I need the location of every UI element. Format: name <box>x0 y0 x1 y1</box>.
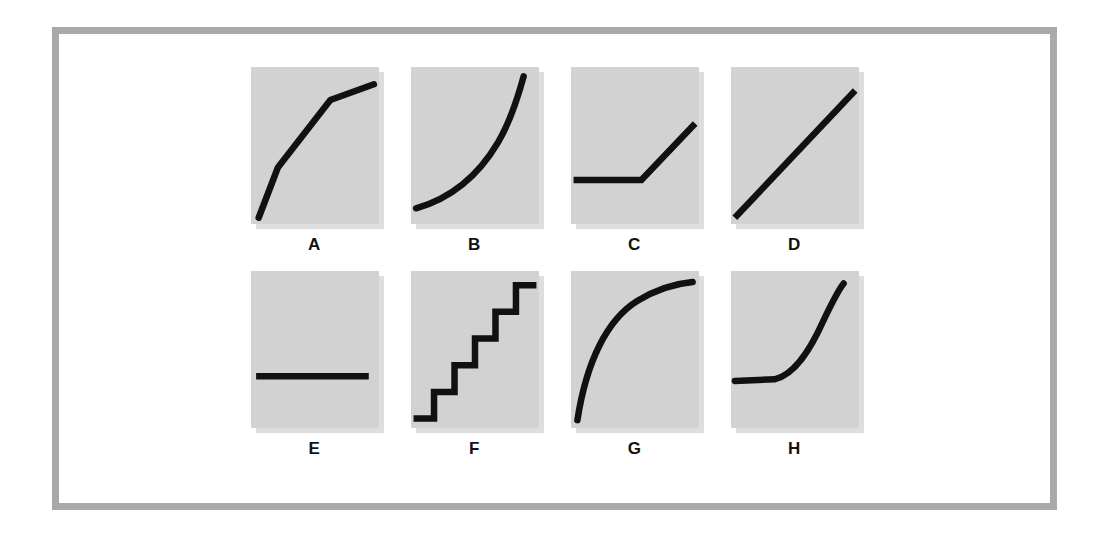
panel-h-curve-svg <box>731 271 859 428</box>
panel-a: A <box>235 67 395 253</box>
figure-root: A B <box>0 0 1107 533</box>
panel-d-curve-svg <box>731 67 859 224</box>
panel-c-plot-background <box>571 67 699 224</box>
panel-b-curve-line <box>416 76 524 208</box>
panel-b-curve-svg <box>411 67 539 224</box>
panel-g-curve-line <box>577 282 692 420</box>
panel-d-plot-background <box>731 67 859 224</box>
panel-row-top: A B <box>59 67 1050 253</box>
panel-f-plot-background <box>411 271 539 428</box>
panel-c-label: C <box>628 236 641 253</box>
panel-e-plot-area <box>251 271 379 428</box>
panel-b-label: B <box>468 236 481 253</box>
panel-f-curve-svg <box>411 271 539 428</box>
panel-f-curve-line <box>413 285 536 418</box>
panel-e-label: E <box>309 440 321 457</box>
panel-a-label: A <box>308 236 321 253</box>
panel-e: E <box>235 271 395 457</box>
panel-a-plot-background <box>251 67 379 224</box>
panel-g-label: G <box>628 440 642 457</box>
panel-row-bottom: E F <box>59 271 1050 457</box>
panel-e-curve-svg <box>251 271 379 428</box>
panel-grid: A B <box>59 34 1050 503</box>
panel-h: H <box>715 271 875 457</box>
panel-h-plot-area <box>731 271 859 428</box>
panel-g-plot-area <box>571 271 699 428</box>
panel-c-curve-line <box>573 124 695 181</box>
panel-g-plot-background <box>571 271 699 428</box>
panel-f: F <box>395 271 555 457</box>
panel-d-label: D <box>788 236 801 253</box>
panel-h-plot-background <box>731 271 859 428</box>
panel-b-plot-background <box>411 67 539 224</box>
panel-b: B <box>395 67 555 253</box>
panel-c: C <box>555 67 715 253</box>
panel-d-plot-area <box>731 67 859 224</box>
panel-h-curve-line <box>734 284 843 381</box>
figure-frame-border: A B <box>52 27 1057 510</box>
panel-g: G <box>555 271 715 457</box>
panel-b-plot-area <box>411 67 539 224</box>
panel-c-curve-svg <box>571 67 699 224</box>
panel-h-label: H <box>788 440 801 457</box>
panel-g-curve-svg <box>571 271 699 428</box>
panel-f-label: F <box>469 440 480 457</box>
panel-a-curve-svg <box>251 67 379 224</box>
panel-d-curve-line <box>734 91 854 218</box>
panel-c-plot-area <box>571 67 699 224</box>
panel-a-curve-line <box>258 84 373 217</box>
panel-a-plot-area <box>251 67 379 224</box>
panel-e-plot-background <box>251 271 379 428</box>
panel-f-plot-area <box>411 271 539 428</box>
panel-d: D <box>715 67 875 253</box>
